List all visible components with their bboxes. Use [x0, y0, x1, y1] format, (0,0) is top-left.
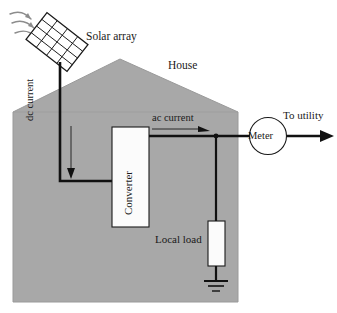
local-load-label: Local load [155, 234, 202, 245]
meter-label: Meter [248, 131, 273, 142]
solar-array-panel [26, 13, 88, 72]
solar-array-label: Solar array [86, 31, 137, 43]
local-load-resistor [208, 221, 225, 266]
diagram-canvas [0, 0, 337, 313]
to-utility-label: To utility [283, 110, 323, 121]
solar-house-diagram: Solar array House dc current Converter a… [0, 0, 337, 313]
ac-branch-junction [214, 134, 219, 139]
ac-current-label: ac current [152, 113, 194, 124]
dc-current-label: dc current [25, 79, 36, 121]
house-label: House [168, 60, 197, 72]
utility-arrowhead [320, 130, 334, 142]
converter-label: Converter [123, 171, 134, 215]
